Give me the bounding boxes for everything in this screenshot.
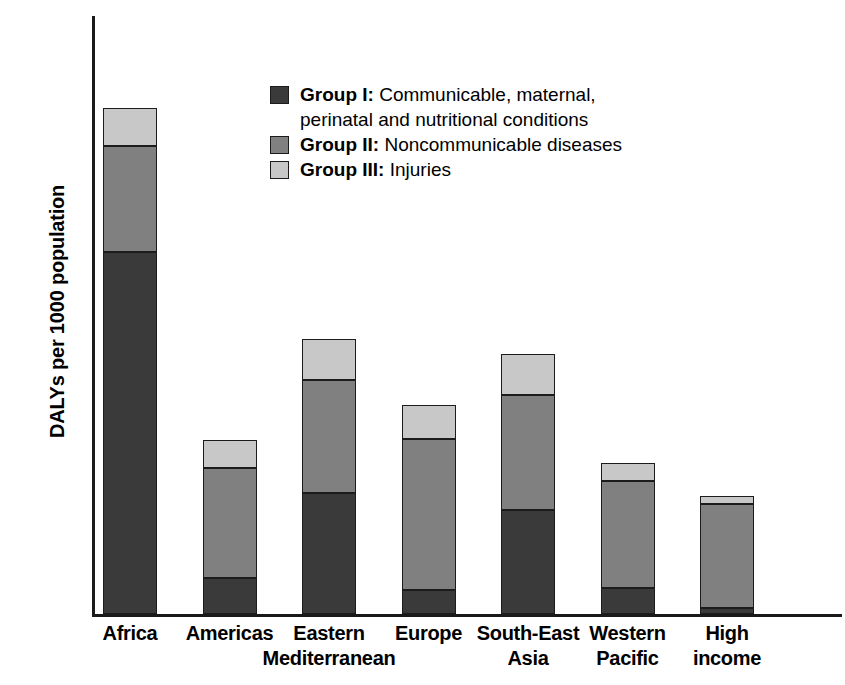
legend-label: Group II: Noncommunicable diseases (300, 132, 690, 157)
x-tick-label-line: Mediterranean (244, 646, 414, 671)
bar-segment[interactable] (302, 380, 356, 494)
bar-segment[interactable] (203, 440, 257, 468)
bar-segment[interactable] (601, 463, 655, 482)
stacked-bar-chart: DALYs per 1000 population 01002003004005… (0, 0, 845, 685)
bar-segment[interactable] (700, 496, 754, 504)
bar-segment[interactable] (700, 608, 754, 614)
bar-segment[interactable] (103, 252, 157, 614)
y-axis-title: DALYs per 1000 population (46, 12, 69, 612)
legend-label: Group III: Injuries (300, 157, 690, 182)
legend-swatch-icon (270, 136, 289, 154)
bar-segment[interactable] (103, 146, 157, 253)
legend-group-name: Group III: (300, 159, 384, 180)
bar-segment[interactable] (601, 481, 655, 588)
legend-group-description-line2: perinatal and nutritional conditions (300, 107, 690, 132)
bar-segment[interactable] (402, 590, 456, 614)
bar-segment[interactable] (203, 578, 257, 614)
bar-segment[interactable] (203, 468, 257, 579)
legend-label: Group I: Communicable, maternal, (300, 82, 690, 107)
legend-group-description: Communicable, maternal, (374, 84, 596, 105)
x-axis-line (92, 614, 842, 617)
legend-item[interactable]: Group III: Injuries (270, 157, 690, 182)
bar-segment[interactable] (402, 405, 456, 439)
x-tick-label: Highincome (642, 621, 812, 671)
bar-segment[interactable] (700, 504, 754, 608)
bar-group[interactable] (700, 16, 754, 614)
bar-segment[interactable] (601, 588, 655, 614)
legend-item[interactable]: Group II: Noncommunicable diseases (270, 132, 690, 157)
bar-segment[interactable] (302, 339, 356, 380)
x-tick-label-line: income (642, 646, 812, 671)
bar-group[interactable] (103, 16, 157, 614)
legend-group-description: Noncommunicable diseases (379, 134, 622, 155)
bar-segment[interactable] (501, 354, 555, 395)
legend-item[interactable]: Group I: Communicable, maternal, (270, 82, 690, 107)
legend-swatch-icon (270, 161, 289, 179)
bar-segment[interactable] (402, 439, 456, 590)
legend-group-description: Injuries (384, 159, 451, 180)
bar-segment[interactable] (103, 108, 157, 146)
legend-group-name: Group II: (300, 134, 379, 155)
bar-segment[interactable] (302, 493, 356, 614)
legend-group-name: Group I: (300, 84, 374, 105)
legend-swatch-icon (270, 86, 289, 104)
bar-segment[interactable] (501, 395, 555, 511)
bar-segment[interactable] (501, 510, 555, 614)
x-tick-label-line: High (642, 621, 812, 646)
bar-group[interactable] (203, 16, 257, 614)
chart-legend: Group I: Communicable, maternal,perinata… (270, 82, 690, 182)
